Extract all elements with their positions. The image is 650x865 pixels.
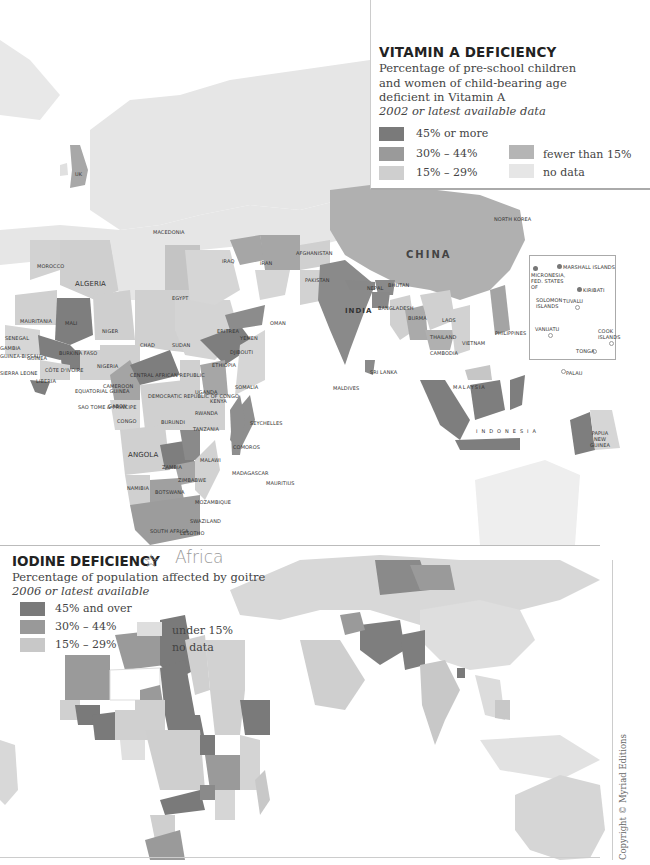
label-comoros: COMOROS (233, 444, 260, 450)
cook-islands-marker-icon (609, 341, 614, 346)
vitamin-a-title: VITAMIN A DEFICIENCY (379, 44, 557, 60)
label-swaziland: SWAZILAND (190, 518, 221, 524)
iodine-legend-label: under 15% (172, 624, 233, 637)
label-tonga: TONGA (576, 348, 595, 354)
iodine-title: IODINE DEFICIENCY (12, 553, 160, 569)
label-egypt: EGYPT (172, 295, 188, 301)
label-bangladesh: BANGLADESH (378, 305, 414, 311)
label-tanzania: TANZANIA (193, 426, 219, 432)
label-chad: CHAD (140, 342, 155, 348)
legend-swatch-45-plus (379, 127, 404, 141)
label-ethiopia: ETHIOPIA (212, 362, 236, 368)
label-china: CHINA (406, 249, 452, 260)
iodine-subtitle: Percentage of population affected by goi… (12, 570, 265, 584)
tuvalu-marker-icon (575, 305, 580, 310)
legend-swatch-30-44 (379, 147, 404, 161)
iodine-swatch-45-plus (20, 602, 45, 616)
label-rwanda: RWANDA (195, 410, 218, 416)
copyright-notice: Copyright © Myriad Editions (618, 734, 628, 860)
label-micronesia: MICRONESIA, FED. STATES OF (531, 272, 571, 290)
label-burkina-faso: BURKINA FASO (59, 350, 97, 356)
label-gabon: GABON (108, 403, 127, 409)
iodine-swatch-under-15 (137, 622, 162, 636)
label-sierra-leone: SIERRA LEONE (0, 370, 38, 376)
label-vanuatu: VANUATU (535, 326, 559, 332)
iodine-swatch-15-29 (20, 638, 45, 652)
label-macedonia: MACEDONIA (153, 229, 185, 235)
label-yemen: YEMEN (240, 335, 258, 341)
label-zambia: ZAMBIA (162, 464, 182, 470)
legend-swatch-15-29 (379, 166, 404, 180)
label-namibia: NAMIBIA (127, 485, 149, 491)
label-zimbabwe: ZIMBABWE (178, 477, 206, 483)
label-botswana: BOTSWANA (155, 489, 185, 495)
label-mozambique: MOZAMBIQUE (195, 499, 231, 505)
label-congo: CONGO (117, 418, 136, 424)
label-guinea: GUINEA (27, 355, 47, 361)
label-niger: NIGER (102, 328, 118, 334)
iodine-swatch-30-44 (20, 620, 45, 634)
label-nepal: NEPAL (367, 285, 383, 291)
label-equatorial-guinea: EQUATORIAL GUINEA (75, 388, 130, 394)
label-uk: UK (75, 171, 82, 177)
label-mali: MALI (65, 320, 77, 326)
vitamin-a-date: 2002 or latest available data (379, 104, 546, 118)
label-car: CENTRAL AFRICAN REPUBLIC (130, 372, 205, 378)
bottom-divider (0, 857, 600, 858)
label-nigeria: NIGERIA (97, 363, 118, 369)
label-sudan: SUDAN (172, 342, 190, 348)
subtitle-line: and women of child-bearing age (379, 76, 639, 91)
iodine-legend-label: 15% – 29% (55, 638, 116, 651)
label-gambia: GAMBIA (0, 345, 21, 351)
label-thailand: THAILAND (430, 334, 456, 340)
vanuatu-marker-icon (548, 333, 553, 338)
label-somalia: SOMALIA (235, 384, 258, 390)
label-south-africa: SOUTH AFRICA (150, 528, 189, 534)
label-indonesia: INDONESIA (476, 428, 540, 434)
label-cote-divoire: CÔTE D'IVOIRE (45, 367, 84, 373)
label-north-korea: NORTH KOREA (494, 216, 531, 222)
label-burundi: BURUNDI (161, 419, 185, 425)
iodine-legend-label: 45% and over (55, 602, 132, 615)
label-seychelles: SEYCHELLES (250, 420, 282, 426)
label-burma: BURMA (408, 315, 427, 321)
label-papua-new-guinea: PAPUA NEW GUINEA (585, 430, 615, 448)
label-madagascar: MADAGASCAR (232, 470, 269, 476)
legend-swatch-no-data (509, 164, 534, 178)
label-maldives: MALDIVES (333, 385, 359, 391)
legend-label: no data (543, 166, 585, 179)
subtitle-line: Percentage of pre-school children (379, 61, 639, 76)
label-liberia: LIBERIA (36, 378, 56, 384)
handwritten-star-icon: ☆ (143, 550, 159, 571)
legend-label: 30% – 44% (416, 147, 477, 160)
label-algeria: ALGERIA (75, 280, 106, 288)
label-eritrea: ERITREA (217, 328, 239, 334)
label-uganda: UGANDA (195, 389, 217, 395)
subtitle-line: deficient in Vitamin A (379, 90, 639, 105)
label-djibouti: DJIBOUTI (230, 349, 253, 355)
label-philippines: PHILIPPINES (495, 330, 526, 336)
label-kiribati: KIRIBATI (583, 287, 605, 293)
iodine-date: 2006 or latest available (12, 584, 149, 598)
legend-swatch-under-15 (509, 145, 534, 159)
label-malawi: MALAWI (200, 457, 221, 463)
label-sri-lanka: SRI LANKA (370, 369, 397, 375)
marshall-islands-marker-icon (557, 264, 562, 269)
handwritten-note: Africa (175, 547, 224, 567)
label-afghanistan: AFGHANISTAN (296, 250, 333, 256)
map-frame-line (612, 560, 613, 860)
label-iran: IRAN (260, 260, 272, 266)
label-palau: PALAU (566, 370, 583, 376)
vitamin-a-subtitle: Percentage of pre-school children and wo… (379, 61, 639, 105)
label-mauritius: MAURITIUS (266, 480, 295, 486)
legend-label: fewer than 15% (543, 148, 631, 161)
label-morocco: MOROCCO (37, 263, 64, 269)
label-cambodia: CAMBODIA (430, 350, 458, 356)
label-solomon-islands: SOLOMON ISLANDS (536, 297, 561, 309)
iodine-legend-label: 30% – 44% (55, 620, 116, 633)
label-tuvalu: TUVALU (563, 298, 583, 304)
label-india: INDIA (345, 307, 372, 315)
iodine-legend-label: no data (172, 641, 214, 654)
label-senegal: SENEGAL (5, 335, 29, 341)
label-kenya: KENYA (210, 398, 227, 404)
